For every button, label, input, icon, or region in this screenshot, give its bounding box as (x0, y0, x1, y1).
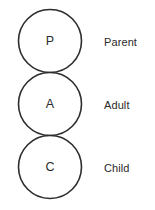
child-ego-label: Child (104, 162, 130, 174)
adult-ego-label: Adult (104, 99, 130, 111)
child-ego-letter: C (45, 160, 54, 174)
pac-diagram-canvas: P A C Parent Adult Child (0, 0, 155, 210)
parent-ego-label: Parent (104, 36, 137, 48)
pac-diagram-graphic: P A C (0, 0, 155, 210)
parent-ego-letter: P (46, 34, 55, 48)
adult-ego-letter: A (46, 97, 55, 111)
